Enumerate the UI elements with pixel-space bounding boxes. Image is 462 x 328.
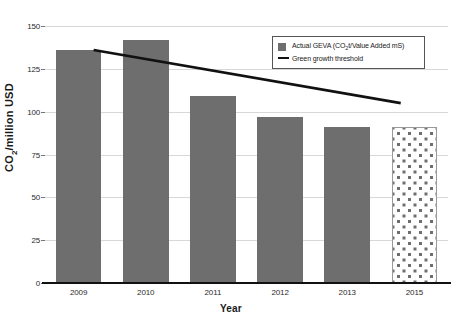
legend-square-swatch-icon: [278, 43, 286, 51]
x-axis-line: [42, 282, 451, 284]
bar-2012: [257, 117, 303, 283]
x-tick-label-2011: 2011: [205, 288, 222, 297]
legend-item-green-growth-threshold: Green growth threshold: [278, 53, 419, 63]
y-tick-label: 150: [8, 22, 40, 31]
bar-2009: [56, 50, 102, 283]
y-tick-label: 100: [8, 107, 40, 116]
x-tick-label-2009: 2009: [70, 288, 87, 297]
bar-2015: [392, 127, 438, 283]
x-tick-label-2012: 2012: [271, 288, 288, 297]
y-tick-label: 0: [8, 279, 40, 288]
x-tick-label-2013: 2013: [339, 288, 356, 297]
y-tick-label: 75: [8, 150, 40, 159]
legend-line-swatch-icon: [278, 57, 289, 59]
chart-legend: Actual GEVA (CO2t/Value Added mS) Green …: [272, 36, 425, 69]
bar-2011: [190, 96, 236, 283]
x-tick-label-2010: 2010: [137, 288, 154, 297]
y-tick-label: 50: [8, 193, 40, 202]
x-tick-label-2015: 2015: [406, 288, 423, 297]
legend-label-actual-geva: Actual GEVA (CO2t/Value Added mS): [292, 42, 404, 51]
y-tick-label: 125: [8, 64, 40, 73]
legend-item-actual-geva: Actual GEVA (CO2t/Value Added mS): [278, 42, 419, 52]
chart-container: CO2/million USD 0255075100125150 2009201…: [0, 0, 462, 328]
legend-label-green-growth-threshold: Green growth threshold: [292, 55, 363, 62]
bar-2010: [123, 40, 169, 283]
y-tick-label: 25: [8, 236, 40, 245]
x-axis-title: Year: [0, 303, 462, 314]
y-axis-ticks: 0255075100125150: [0, 0, 40, 328]
bar-2013: [324, 127, 370, 283]
